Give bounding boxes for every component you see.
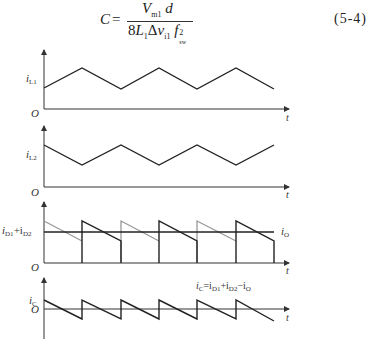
id1-waveform — [82, 221, 274, 263]
panel-il1: iL1 O t — [26, 50, 289, 123]
origin-label: O — [31, 303, 39, 315]
panel-id: iD1+iD2 iO O t — [2, 202, 289, 276]
waveform-figure: iL1 O t iL2 O t iD1+iD2 iO O t — [0, 0, 378, 350]
ic-waveform — [44, 300, 274, 321]
origin-label: O — [31, 107, 39, 119]
il2-waveform — [44, 145, 274, 165]
xlabel-t: t — [286, 312, 289, 323]
origin-label: O — [31, 186, 39, 198]
ic-equation-annotation: iC=iD1+iD2−iO — [196, 280, 251, 293]
il1-waveform — [44, 68, 274, 89]
panel-il2: iL2 O t — [26, 126, 289, 200]
panel-ic: iC O t iC=iD1+iD2−iO — [29, 278, 289, 339]
origin-label: O — [31, 261, 39, 273]
ylabel-il1: iL1 — [26, 72, 37, 86]
io-label: iO — [281, 225, 289, 239]
xlabel-t: t — [286, 189, 289, 200]
id2-waveform — [44, 221, 236, 263]
ylabel-il2: iL2 — [26, 148, 37, 162]
xlabel-t: t — [286, 265, 289, 276]
ylabel-id1-id2: iD1+iD2 — [2, 224, 32, 238]
xlabel-t: t — [286, 112, 289, 123]
